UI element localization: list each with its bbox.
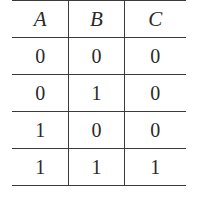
table-row: 1 1 1 — [12, 149, 186, 186]
table-row: 1 0 0 — [12, 112, 186, 149]
cell-b: 0 — [69, 38, 124, 75]
truth-table: A B C 0 0 0 0 1 0 1 0 0 1 1 1 — [12, 0, 186, 186]
cell-a: 1 — [12, 149, 69, 186]
cell-b: 1 — [69, 149, 124, 186]
cell-a: 1 — [12, 112, 69, 149]
cell-b: 1 — [69, 75, 124, 112]
header-row: A B C — [12, 1, 186, 38]
header-a: A — [12, 1, 69, 38]
header-b: B — [69, 1, 124, 38]
table-row: 0 0 0 — [12, 38, 186, 75]
table-row: 0 1 0 — [12, 75, 186, 112]
cell-c: 1 — [124, 149, 186, 186]
table-header: A B C — [12, 1, 186, 38]
header-c: C — [124, 1, 186, 38]
cell-a: 0 — [12, 38, 69, 75]
table-body: 0 0 0 0 1 0 1 0 0 1 1 1 — [12, 38, 186, 186]
cell-c: 0 — [124, 75, 186, 112]
cell-c: 0 — [124, 38, 186, 75]
cell-c: 0 — [124, 112, 186, 149]
cell-b: 0 — [69, 112, 124, 149]
cell-a: 0 — [12, 75, 69, 112]
